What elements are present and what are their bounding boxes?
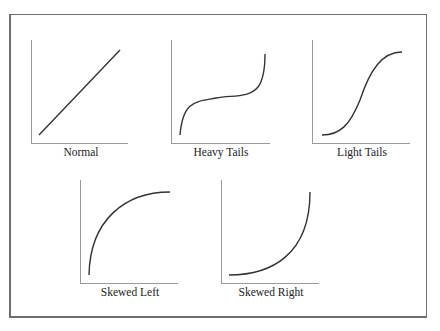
panel-label: Skewed Right [221, 286, 321, 298]
panel-label: Skewed Left [80, 286, 180, 298]
skewed-left-curve [89, 192, 170, 275]
light-tails-plot [312, 40, 412, 145]
normal-curve [39, 50, 120, 135]
panel-light-tails: Light Tails [312, 40, 422, 175]
panel-skewed-left: Skewed Left [80, 180, 190, 315]
normal-plot [31, 40, 131, 145]
panel-label: Heavy Tails [171, 146, 271, 158]
panel-normal: Normal [31, 40, 141, 175]
skewed-right-curve [229, 192, 310, 275]
panel-heavy-tails: Heavy Tails [171, 40, 281, 175]
light-tails-curve [322, 52, 402, 135]
heavy-tails-curve [180, 54, 265, 135]
panel-skewed-right: Skewed Right [221, 180, 331, 315]
heavy-tails-plot [171, 40, 271, 145]
skewed-left-plot [80, 180, 180, 285]
panel-label: Light Tails [312, 146, 412, 158]
panel-label: Normal [31, 146, 131, 158]
skewed-right-plot [221, 180, 321, 285]
